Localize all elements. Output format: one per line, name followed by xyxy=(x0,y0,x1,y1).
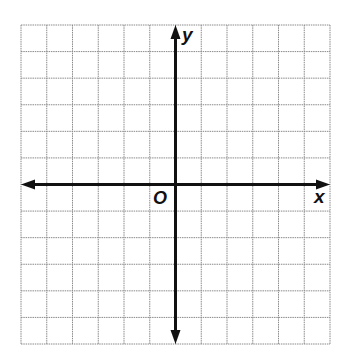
y-axis-label: y xyxy=(182,24,193,46)
x-axis-label: x xyxy=(314,186,325,208)
axes xyxy=(21,25,330,344)
origin-label: O xyxy=(153,188,167,209)
coordinate-plane xyxy=(0,0,345,358)
